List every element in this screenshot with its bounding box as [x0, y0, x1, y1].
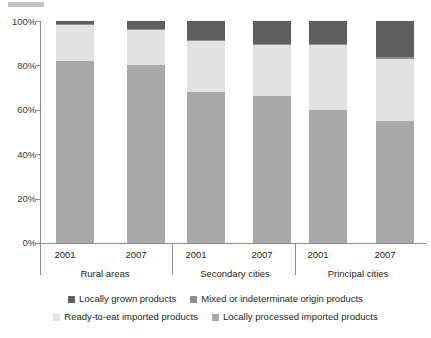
x-label-group-rural-areas: Rural areas — [35, 268, 175, 279]
bar-rural-2007 — [127, 21, 165, 243]
legend-swatch-icon — [212, 314, 219, 321]
legend-swatch-icon — [53, 314, 60, 321]
x-label-year-secondary-2007: 2007 — [232, 249, 292, 260]
x-label-year-principal-2001: 2001 — [288, 249, 348, 260]
bars-layer — [0, 0, 431, 290]
bar-segment — [253, 96, 291, 243]
bar-segment — [376, 21, 414, 57]
bar-segment — [253, 45, 291, 96]
bar-segment — [56, 61, 94, 243]
bar-secondary-2001 — [187, 21, 225, 243]
plot-area: 100% 80% 60% 40% 20% 0% 2001 2007 2001 2… — [0, 0, 431, 290]
bar-secondary-2007 — [253, 21, 291, 243]
x-label-year-secondary-2001: 2001 — [166, 249, 226, 260]
bar-segment — [56, 25, 94, 61]
bar-segment — [127, 65, 165, 243]
bar-segment — [309, 45, 347, 109]
bar-segment — [253, 21, 291, 44]
bar-segment — [309, 110, 347, 243]
bar-principal-2007 — [376, 21, 414, 243]
bar-segment — [309, 21, 347, 44]
x-label-year-rural-2007: 2007 — [106, 249, 166, 260]
legend-item-locally-processed-imported-products[interactable]: Locally processed imported products — [212, 312, 378, 322]
bar-segment — [376, 121, 414, 243]
bar-rural-2001 — [56, 21, 94, 243]
legend-row-2: Ready-to-eat imported products Locally p… — [0, 308, 431, 326]
legend-item-locally-grown-products[interactable]: Locally grown products — [68, 294, 176, 304]
x-label-group-principal-cities: Principal cities — [288, 268, 428, 279]
bar-segment — [187, 92, 225, 243]
legend-label: Ready-to-eat imported products — [64, 312, 198, 322]
bar-principal-2001 — [309, 21, 347, 243]
x-label-year-principal-2007: 2007 — [355, 249, 415, 260]
legend-item-ready-to-eat-imported-products[interactable]: Ready-to-eat imported products — [53, 312, 198, 322]
legend-swatch-icon — [68, 296, 75, 303]
bar-segment — [187, 21, 225, 40]
chart-legend: Locally grown products Mixed or indeterm… — [0, 290, 431, 334]
legend-label: Mixed or indeterminate origin products — [201, 294, 363, 304]
legend-label: Locally grown products — [79, 294, 176, 304]
bar-segment — [187, 41, 225, 92]
stacked-bar-chart: 100% 80% 60% 40% 20% 0% 2001 2007 2001 2… — [0, 0, 431, 338]
legend-row-1: Locally grown products Mixed or indeterm… — [0, 290, 431, 308]
bar-segment — [376, 59, 414, 121]
legend-label: Locally processed imported products — [223, 312, 378, 322]
x-label-year-rural-2001: 2001 — [35, 249, 95, 260]
legend-item-mixed-or-indeterminate-origin-products[interactable]: Mixed or indeterminate origin products — [190, 294, 363, 304]
legend-swatch-icon — [190, 296, 197, 303]
bar-segment — [127, 21, 165, 29]
bar-segment — [127, 30, 165, 66]
x-label-group-secondary-cities: Secondary cities — [165, 268, 305, 279]
